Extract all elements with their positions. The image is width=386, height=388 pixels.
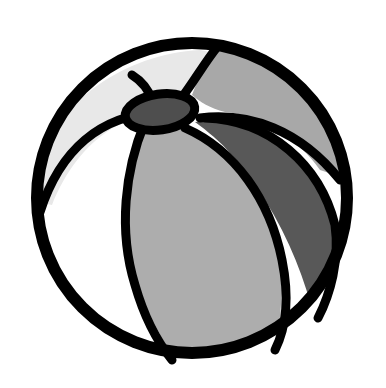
beach-ball-svg: [0, 0, 386, 388]
beach-ball-illustration: [0, 0, 386, 388]
